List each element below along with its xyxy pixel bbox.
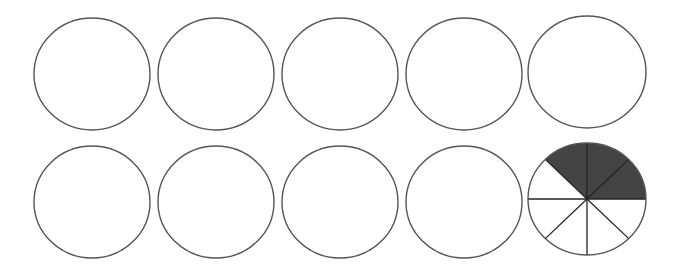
empty-circle [158,146,274,258]
division-line [545,199,587,239]
division-line [587,199,629,239]
circle-outline [282,18,398,130]
empty-circle [406,18,522,130]
empty-circle [282,18,398,130]
circle-outline [158,146,274,258]
empty-circle [406,146,522,258]
circle-outline [406,146,522,258]
empty-circle [528,16,646,128]
circle-outline [158,18,274,130]
circle-row-2 [34,143,646,258]
empty-circle [34,18,150,130]
circle-outline [34,146,150,258]
empty-circle [282,146,398,258]
circle-outline [34,18,150,130]
circle-row-1 [34,16,646,130]
empty-circle [158,18,274,130]
empty-circle [34,146,150,258]
circle-outline [528,16,646,128]
circle-outline [406,18,522,130]
divided-circle [528,143,646,255]
circle-outline [282,146,398,258]
fraction-circles-figure [0,0,678,273]
